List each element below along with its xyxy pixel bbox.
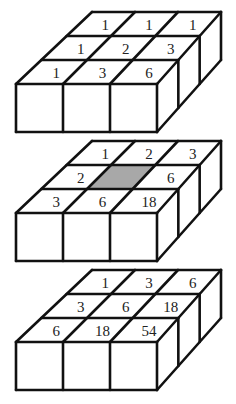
cell-number: 3	[99, 65, 107, 81]
cell-number: 18	[95, 323, 110, 339]
middle-layer: 123263618	[16, 141, 221, 261]
cell-number: 1	[189, 17, 197, 33]
cell-number: 1	[145, 17, 153, 33]
cell-number: 3	[145, 275, 153, 291]
cell-number: 6	[145, 65, 153, 81]
cell-number: 3	[167, 41, 175, 57]
cell-number: 3	[77, 299, 85, 315]
cell-number: 1	[52, 65, 60, 81]
cell-number: 2	[122, 41, 130, 57]
cube-layers-diagram: 111123136123263618136361861854	[0, 0, 236, 404]
cell-number: 6	[189, 275, 197, 291]
cell-number: 6	[167, 170, 175, 186]
cell-number: 2	[145, 146, 153, 162]
front-face	[16, 84, 157, 132]
cell-number: 1	[101, 146, 109, 162]
cell-number: 18	[163, 299, 178, 315]
cell-number: 18	[141, 194, 156, 210]
cell-number: 3	[52, 194, 60, 210]
cell-number: 3	[189, 146, 197, 162]
front-face	[16, 213, 157, 261]
cell-number: 54	[141, 323, 157, 339]
bottom-layer: 136361861854	[16, 270, 221, 390]
cell-number: 1	[77, 41, 85, 57]
cell-number: 6	[52, 323, 60, 339]
top-layer: 111123136	[16, 12, 221, 132]
cell-number: 6	[99, 194, 107, 210]
cell-number: 2	[77, 170, 85, 186]
front-face	[16, 342, 157, 390]
cell-number: 1	[101, 17, 109, 33]
cell-number: 6	[122, 299, 130, 315]
cell-number: 1	[101, 275, 109, 291]
